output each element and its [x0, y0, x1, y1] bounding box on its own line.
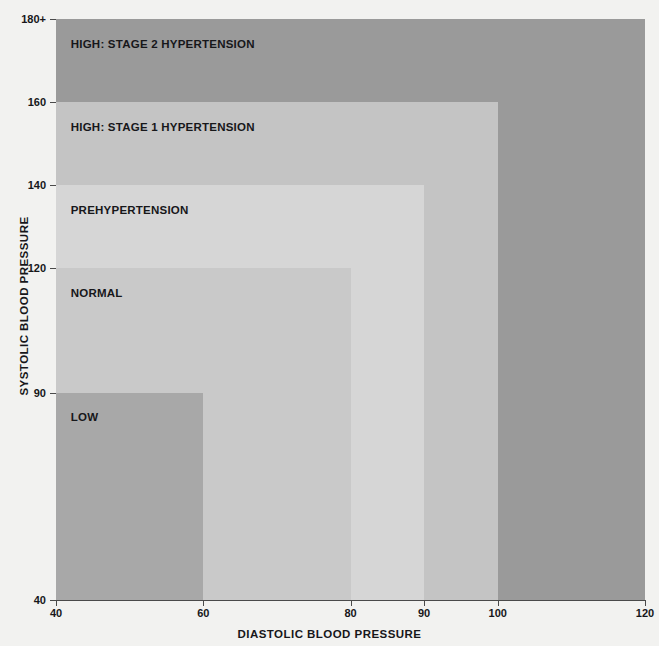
- zone-label: PREHYPERTENSION: [71, 204, 189, 216]
- x-tick: [498, 600, 499, 606]
- zone-label: NORMAL: [71, 287, 123, 299]
- zone-label: HIGH: STAGE 1 HYPERTENSION: [71, 121, 255, 133]
- x-tick: [645, 600, 646, 606]
- zone-low: [56, 393, 203, 601]
- zone-label: LOW: [71, 411, 99, 423]
- x-tick: [424, 600, 425, 606]
- blood-pressure-chart: HIGH: STAGE 2 HYPERTENSIONHIGH: STAGE 1 …: [0, 0, 659, 646]
- x-tick: [203, 600, 204, 606]
- y-tick-label: 160: [6, 96, 46, 108]
- x-tick-label: 120: [625, 607, 659, 619]
- y-axis-title: SYSTOLIC BLOOD PRESSURE: [18, 196, 30, 416]
- x-tick-label: 100: [478, 607, 518, 619]
- y-tick-label: 180+: [6, 13, 46, 25]
- y-tick-label: 140: [6, 179, 46, 191]
- x-tick-label: 40: [36, 607, 76, 619]
- x-tick: [56, 600, 57, 606]
- x-tick-label: 90: [404, 607, 444, 619]
- y-tick-label: 40: [6, 594, 46, 606]
- zone-label: HIGH: STAGE 2 HYPERTENSION: [71, 38, 255, 50]
- x-tick: [351, 600, 352, 606]
- x-axis-title: DIASTOLIC BLOOD PRESSURE: [0, 628, 659, 640]
- plot-area: HIGH: STAGE 2 HYPERTENSIONHIGH: STAGE 1 …: [56, 19, 645, 600]
- x-tick-label: 60: [183, 607, 223, 619]
- x-tick-label: 80: [331, 607, 371, 619]
